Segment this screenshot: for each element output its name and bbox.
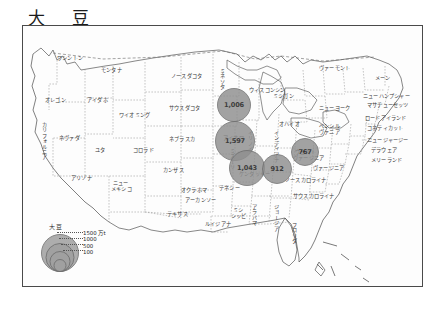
bubble-value-ohio: 767	[298, 148, 311, 156]
state-label-florida: フロリダ	[291, 222, 296, 250]
legend-leader-1500	[57, 232, 83, 233]
legend-label-100: 100	[83, 249, 106, 255]
legend-leader-1000	[59, 238, 83, 239]
state-label-north-dakota: ノースダコタ	[171, 74, 202, 79]
state-label-utah: ユタ	[95, 148, 105, 153]
state-label-virginia: ヴァージニア	[313, 166, 344, 171]
state-label-nevada: ネヴァダ	[59, 136, 80, 141]
state-label-wyoming: ワイオミング	[119, 113, 150, 118]
state-label-ohio: オハイオ	[279, 122, 300, 127]
legend-circle-100	[54, 259, 67, 272]
state-label-idaho: アイダホ	[87, 98, 108, 103]
state-label-south-dakota: サウスダコタ	[169, 106, 200, 111]
state-label-louisiana: ルイジアナ	[205, 222, 231, 227]
state-label-alabama: アラバマ	[251, 204, 256, 228]
state-label-tennessee: テネシー	[219, 186, 240, 191]
state-label-delaware: デラウェア	[371, 148, 397, 153]
state-label-north-carolina: ノースカロライナ	[285, 178, 327, 183]
state-label-rhode-island: ロードアイランド	[365, 116, 407, 121]
bubble-minnesota[interactable]: 1,006	[217, 88, 251, 122]
state-label-texas: テキサス	[167, 212, 188, 217]
map-frame: ワシントン モンタナ ノースダコタ オレゴン アイダホ サウスダコタ ワイオミン…	[22, 25, 423, 287]
state-label-oklahoma: オクラホマ	[181, 188, 207, 193]
state-label-maryland: メリーランド	[371, 158, 402, 163]
state-label-vermont: ヴァーモント	[319, 66, 350, 71]
bubble-value-iowa: 1,597	[225, 137, 245, 145]
state-label-new-york: ニューヨーク	[319, 106, 350, 111]
state-label-pennsylvania-2: ヴァニア	[319, 130, 340, 135]
state-label-new-mexico-2: メキシコ	[111, 187, 132, 192]
state-label-kansas: カンザス	[163, 168, 184, 173]
state-label-california: カリフォルニア	[41, 122, 46, 184]
bubble-illinois[interactable]: 1,043	[229, 150, 265, 186]
bubble-value-minnesota: 1,006	[224, 101, 244, 109]
bubble-ohio[interactable]: 767	[291, 138, 319, 166]
legend-leader-100	[63, 250, 83, 251]
legend-nested-circles	[37, 230, 83, 276]
state-label-oregon: オレゴン	[45, 98, 66, 103]
state-label-south-carolina: サウスカロライナ	[293, 194, 335, 199]
state-label-maine: メーン	[375, 76, 391, 81]
state-label-georgia: ジョージア	[273, 204, 278, 230]
state-label-connecticut: コネティカット	[367, 126, 403, 131]
state-label-washington: ワシントン	[57, 56, 83, 61]
state-label-new-hampshire: ニューハンプシャー	[363, 94, 410, 99]
state-label-mississippi-2: シッピ	[231, 214, 247, 219]
bubble-value-indiana: 912	[270, 165, 283, 173]
legend-labels: 1500 万t 1000 500 100	[83, 230, 106, 256]
state-label-nebraska: ネブラスカ	[169, 137, 195, 142]
state-label-massachusetts: マサチューセッツ	[367, 103, 409, 108]
state-label-michigan: ミシガン	[273, 94, 294, 99]
legend-leader-500	[61, 244, 83, 245]
state-label-indiana: インディアナ	[273, 130, 278, 156]
state-label-arizona: アリゾナ	[71, 176, 92, 181]
bubble-indiana[interactable]: 912	[262, 154, 292, 184]
state-label-new-jersey: ニュージャージー	[367, 138, 409, 143]
map-page: 大 豆	[0, 0, 445, 319]
map-legend: 大豆 1500 万t 1000 500 100	[33, 222, 143, 280]
state-label-montana: モンタナ	[101, 68, 122, 73]
state-label-colorado: コロラド	[133, 148, 154, 153]
state-label-arkansas: アーカンソー	[185, 198, 216, 203]
bubble-value-illinois: 1,043	[237, 164, 257, 172]
